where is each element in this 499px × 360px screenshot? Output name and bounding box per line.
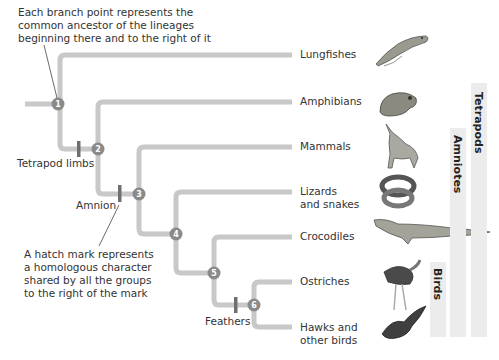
- taxon-label-ostriches: Ostriches: [300, 275, 349, 288]
- branch-amphibians: [98, 102, 292, 149]
- svg-text:2: 2: [95, 145, 101, 154]
- svg-text:5: 5: [211, 269, 217, 278]
- taxon-label-amphibians: Amphibians: [300, 95, 362, 108]
- clade-label-amniotes: Amniotes: [451, 135, 464, 193]
- hatch-mark-tetrapod-limbs: [77, 141, 81, 157]
- branch-lizards: [176, 192, 292, 234]
- taxon-label-crocodiles: Crocodiles: [300, 230, 354, 243]
- frog-illustration: [376, 86, 420, 120]
- branch-crocodiles: [214, 237, 292, 273]
- node-6: 6: [248, 299, 261, 312]
- svg-text:3: 3: [136, 190, 142, 199]
- taxon-label-mammals: Mammals: [300, 140, 351, 153]
- branch-3-4: [139, 194, 176, 234]
- hatch-mark-feathers: [234, 297, 238, 313]
- taxon-label-hawks-and-other-birds: Hawks and other birds: [300, 321, 358, 347]
- svg-text:1: 1: [55, 100, 61, 109]
- hatch-mark-note: A hatch mark represents a homologous cha…: [24, 248, 154, 300]
- svg-text:6: 6: [251, 301, 257, 310]
- hatch-mark-amnion: [118, 185, 122, 202]
- branch-mammals: [139, 147, 292, 194]
- branch-lungfishes: [60, 55, 292, 104]
- svg-text:4: 4: [173, 230, 179, 239]
- branch-hawks: [254, 305, 292, 327]
- clade-label-birds: Birds: [431, 268, 444, 300]
- snake-illustration: [376, 172, 420, 212]
- clade-label-tetrapods: Tetrapods: [472, 92, 485, 153]
- lungfish-illustration: [372, 30, 432, 70]
- branch-point-note: Each branch point represents the common …: [18, 6, 211, 45]
- branch-point-pointer: [44, 45, 57, 98]
- node-1: 1: [52, 98, 65, 111]
- taxon-label-lizards-and-snakes: Lizards and snakes: [300, 185, 359, 211]
- node-5: 5: [208, 267, 221, 280]
- node-2: 2: [92, 143, 105, 156]
- trait-label-feathers: Feathers: [205, 315, 250, 328]
- branch-4-5: [176, 234, 214, 273]
- node-3: 3: [133, 188, 146, 201]
- trait-label-tetrapod-limbs: Tetrapod limbs: [17, 157, 94, 170]
- taxon-label-lungfishes: Lungfishes: [300, 48, 356, 61]
- node-4: 4: [170, 228, 183, 241]
- branch-ostriches: [254, 282, 292, 305]
- trait-label-amnion: Amnion: [76, 199, 116, 212]
- wolf-illustration: [380, 118, 424, 170]
- hawk-illustration: [378, 304, 430, 344]
